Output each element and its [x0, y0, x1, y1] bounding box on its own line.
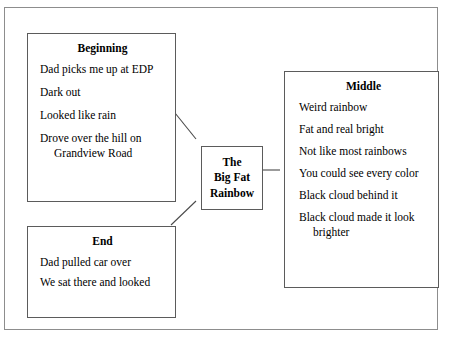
list-item: Looked like rain	[40, 108, 165, 123]
scan-edge-artifact	[0, 0, 454, 5]
story-map-page: Beginning Dad picks me up at EDP Dark ou…	[0, 0, 454, 345]
center-line-1: The	[210, 155, 254, 171]
list-item: Black cloud behind it	[299, 188, 428, 203]
list-item: Weird rainbow	[299, 100, 428, 115]
connector-end-to-center	[171, 201, 196, 225]
list-item: Black cloud made it look brighter	[299, 210, 428, 240]
list-item: You could see every color	[299, 166, 428, 181]
list-item: Fat and real bright	[299, 122, 428, 137]
list-item: Not like most rainbows	[299, 144, 428, 159]
diagram-outer-frame: Beginning Dad picks me up at EDP Dark ou…	[4, 7, 438, 330]
list-item: Dad picks me up at EDP	[40, 62, 165, 77]
node-middle-list: Weird rainbow Fat and real bright Not li…	[299, 100, 428, 240]
center-line-3: Rainbow	[210, 186, 254, 202]
center-line-2: Big Fat	[210, 170, 254, 186]
node-center-topic[interactable]: The Big Fat Rainbow	[201, 146, 263, 210]
list-item: We sat there and looked	[40, 275, 165, 290]
list-item: Dark out	[40, 85, 165, 100]
node-beginning-list: Dad picks me up at EDP Dark out Looked l…	[40, 62, 165, 161]
node-beginning-title: Beginning	[40, 41, 165, 55]
node-end-title: End	[40, 234, 165, 248]
list-item: Drove over the hill on Grandview Road	[40, 131, 165, 161]
node-center-label: The Big Fat Rainbow	[210, 155, 254, 202]
list-item: Dad pulled car over	[40, 255, 165, 270]
node-middle-title: Middle	[299, 79, 428, 93]
node-end[interactable]: End Dad pulled car over We sat there and…	[27, 226, 176, 318]
node-end-list: Dad pulled car over We sat there and loo…	[40, 255, 165, 290]
node-beginning[interactable]: Beginning Dad picks me up at EDP Dark ou…	[27, 33, 176, 202]
node-middle[interactable]: Middle Weird rainbow Fat and real bright…	[284, 71, 439, 288]
